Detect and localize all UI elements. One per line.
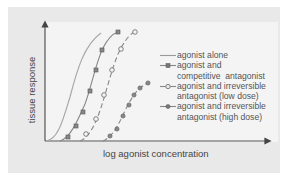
filled-circle-marker xyxy=(132,93,136,97)
open-circle-marker xyxy=(110,68,115,73)
open-circle-marker xyxy=(102,93,107,98)
square-marker xyxy=(74,124,78,128)
square-marker xyxy=(88,89,92,93)
solid-line-swatch-icon xyxy=(159,50,177,60)
open-circle-marker xyxy=(84,132,89,137)
y-axis-label: tissue response xyxy=(26,57,37,124)
open-circle-marker xyxy=(94,117,99,122)
filled-circle-marker xyxy=(146,81,150,85)
legend-label: agonist and irreversible antagonist (hig… xyxy=(177,101,266,122)
filled-circle-marker xyxy=(138,86,142,90)
square-marker xyxy=(66,135,70,139)
legend-label: agonist and competitive antagonist xyxy=(177,60,265,81)
square-marker xyxy=(100,48,104,52)
filled-circle-marker xyxy=(108,134,112,138)
filled-circle-marker xyxy=(127,103,131,107)
filled-circle-swatch-icon xyxy=(159,101,177,111)
legend-label: agonist alone xyxy=(177,50,228,60)
square-marker xyxy=(94,68,98,72)
series-competitive xyxy=(60,30,120,141)
square-marker xyxy=(81,110,85,114)
legend-label: agonist and irreversible antagonist (low… xyxy=(177,81,266,102)
legend: agonist alone agonist and competitive an… xyxy=(159,50,266,122)
square-marker-swatch-icon xyxy=(159,60,177,70)
series-irreversible-high xyxy=(103,81,150,141)
legend-item-irreversible-low: agonist and irreversible antagonist (low… xyxy=(159,81,266,102)
curve-agonist-alone xyxy=(46,33,101,141)
legend-item-agonist-alone: agonist alone xyxy=(159,50,266,60)
x-axis-label: log agonist concentration xyxy=(103,148,209,159)
legend-item-irreversible-high: agonist and irreversible antagonist (hig… xyxy=(159,101,266,122)
square-marker xyxy=(116,30,120,34)
open-circle-marker xyxy=(119,47,124,52)
open-circle-marker xyxy=(133,30,138,35)
filled-circle-marker xyxy=(121,114,125,118)
filled-circle-marker xyxy=(115,127,119,131)
legend-item-competitive: agonist and competitive antagonist xyxy=(159,60,266,81)
open-circle-swatch-icon xyxy=(159,81,177,91)
